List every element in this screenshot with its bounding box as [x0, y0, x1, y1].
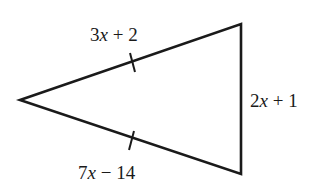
triangle-diagram: 3x + 2 2x + 1 7x − 14 — [0, 0, 335, 190]
label-upper-side: 3x + 2 — [90, 24, 138, 45]
label-lower-side: 7x − 14 — [78, 162, 136, 183]
triangle — [20, 24, 241, 174]
label-right-side: 2x + 1 — [250, 90, 298, 111]
tick-mark-lower — [129, 131, 134, 150]
